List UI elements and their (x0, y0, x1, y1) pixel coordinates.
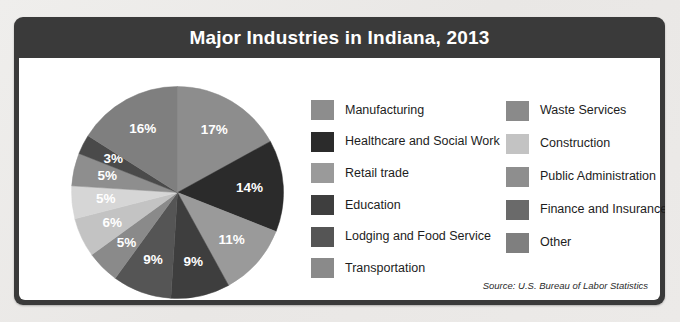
legend-item[interactable]: Transportation (311, 252, 506, 284)
legend-item[interactable]: Manufacturing (311, 94, 506, 126)
chart-card: Major Industries in Indiana, 2013 17%14%… (14, 17, 665, 305)
legend-item[interactable]: Lodging and Food Service (311, 221, 506, 253)
legend-item-label: Public Administration (540, 170, 656, 183)
legend-swatch-icon (506, 167, 529, 187)
pie-slice-label: 11% (218, 232, 244, 247)
legend-swatch-icon (311, 132, 334, 152)
source-note: Source: U.S. Bureau of Labor Statistics (483, 280, 648, 291)
legend-item[interactable]: Education (311, 189, 506, 221)
legend-item-label: Construction (540, 137, 610, 150)
legend-item[interactable]: Healthcare and Social Work (311, 126, 506, 158)
legend-item-label: Transportation (345, 262, 425, 275)
pie-chart-svg: 17%14%11%9%9%5%6%5%5%3%16% (71, 86, 284, 299)
legend-swatch-icon (506, 101, 529, 121)
legend-item-label: Waste Services (540, 104, 626, 117)
legend-swatch-icon (311, 100, 334, 120)
legend-swatch-icon (311, 195, 334, 215)
legend-item[interactable]: Waste Services (506, 94, 656, 127)
pie-slice-label: 16% (129, 121, 156, 136)
legend-item-label: Lodging and Food Service (345, 230, 491, 243)
page-title: Major Industries in Indiana, 2013 (189, 27, 489, 49)
legend-item[interactable]: Finance and Insurance (506, 193, 656, 226)
legend-item-label: Other (540, 236, 571, 249)
pie-slice-label: 17% (201, 122, 228, 137)
chart-legend: Manufacturing Healthcare and Social Work… (311, 94, 656, 284)
legend-item[interactable]: Other (506, 226, 656, 259)
page-root: Major Industries in Indiana, 2013 17%14%… (0, 0, 680, 322)
legend-item[interactable]: Retail trade (311, 157, 506, 189)
legend-item-label: Healthcare and Social Work (345, 135, 500, 148)
pie-slice-label: 9% (143, 252, 163, 267)
legend-swatch-icon (311, 163, 334, 183)
chart-body: 17%14%11%9%9%5%6%5%5%3%16% Manufacturing… (19, 58, 660, 300)
legend-item-label: Education (345, 199, 401, 212)
legend-swatch-icon (506, 134, 529, 154)
legend-item-label: Manufacturing (345, 104, 424, 117)
pie-slice-label: 5% (117, 235, 137, 250)
legend-swatch-icon (311, 258, 334, 278)
legend-swatch-icon (506, 200, 529, 220)
legend-item-label: Retail trade (345, 167, 409, 180)
pie-slice-label: 14% (236, 180, 263, 195)
pie-slice-label: 5% (96, 191, 116, 206)
legend-item-label: Finance and Insurance (540, 203, 665, 216)
legend-column-1: Manufacturing Healthcare and Social Work… (311, 94, 506, 284)
pie-slice-label: 9% (183, 254, 203, 269)
legend-item[interactable]: Public Administration (506, 160, 656, 193)
legend-swatch-icon (311, 227, 334, 247)
legend-swatch-icon (506, 233, 529, 253)
pie-slice-label: 5% (97, 168, 117, 183)
chart-header: Major Industries in Indiana, 2013 (14, 17, 665, 58)
legend-item[interactable]: Construction (506, 127, 656, 160)
pie-slice-label: 6% (103, 215, 123, 230)
pie-chart: 17%14%11%9%9%5%6%5%5%3%16% (71, 86, 284, 299)
legend-column-2: Waste Services Construction Public Admin… (506, 94, 656, 284)
